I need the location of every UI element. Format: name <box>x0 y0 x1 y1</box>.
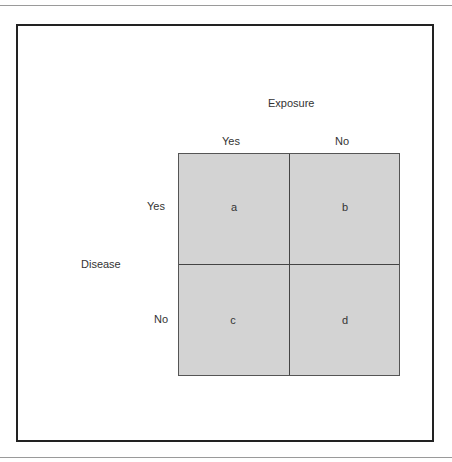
row-header-no: No <box>154 313 168 325</box>
contingency-table: a b c d <box>178 153 400 376</box>
exposure-label: Exposure <box>268 97 314 109</box>
top-rule <box>0 5 452 6</box>
disease-label: Disease <box>81 258 121 270</box>
bottom-rule <box>0 457 452 458</box>
cell-d: d <box>342 314 348 326</box>
horizontal-divider <box>179 264 399 265</box>
cell-a: a <box>231 201 237 213</box>
column-header-yes: Yes <box>222 135 240 147</box>
column-header-no: No <box>335 135 349 147</box>
cell-c: c <box>230 314 236 326</box>
row-header-yes: Yes <box>147 200 165 212</box>
cell-b: b <box>342 201 348 213</box>
